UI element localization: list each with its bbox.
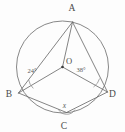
angle-label-D: 38° bbox=[76, 66, 86, 73]
center-label-O: O bbox=[66, 56, 72, 66]
segment-OB bbox=[19, 67, 63, 93]
segment-AD bbox=[73, 22, 108, 92]
vertex-label-D: D bbox=[109, 89, 116, 99]
segment-CD bbox=[67, 92, 108, 113]
vertex-label-B: B bbox=[6, 89, 12, 99]
circle-geometry-figure: A B C D O 24° 38° x bbox=[0, 0, 125, 132]
angle-label-C-unknown: x bbox=[62, 101, 67, 110]
geometry-diagram-container: A B C D O 24° 38° x bbox=[0, 0, 125, 132]
vertex-label-C: C bbox=[61, 121, 67, 131]
angle-label-B: 24° bbox=[27, 67, 37, 74]
center-point-dot bbox=[61, 66, 64, 69]
segment-BC bbox=[19, 93, 67, 113]
vertex-label-A: A bbox=[69, 3, 76, 13]
